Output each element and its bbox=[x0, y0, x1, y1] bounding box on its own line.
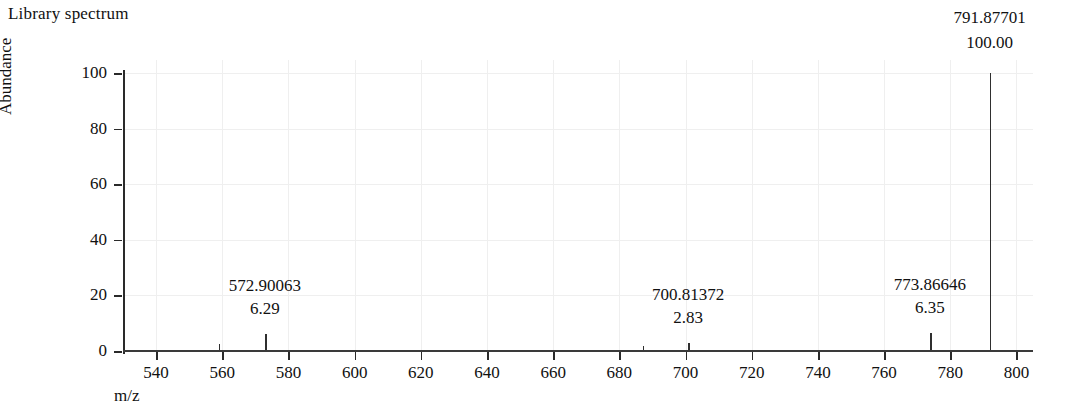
x-axis-tick-label: 720 bbox=[739, 363, 765, 383]
gridline-vertical bbox=[156, 60, 157, 360]
gridline-vertical bbox=[1016, 60, 1017, 360]
gridline-horizontal bbox=[123, 184, 1033, 185]
x-axis-tick bbox=[1016, 352, 1018, 360]
x-axis-tick bbox=[950, 352, 952, 360]
y-axis-tick-label: 40 bbox=[61, 230, 107, 250]
peak-mz-label: 572.90063 bbox=[229, 276, 301, 296]
page-title: Library spectrum bbox=[8, 4, 129, 24]
gridline-vertical bbox=[288, 60, 289, 360]
x-axis-line bbox=[123, 350, 1033, 352]
gridline-vertical bbox=[950, 60, 951, 360]
peak-mz-label: 791.87701 bbox=[953, 8, 1025, 28]
peak-intensity-label: 100.00 bbox=[966, 33, 1013, 53]
x-axis-label: m/z bbox=[114, 386, 140, 406]
x-axis-tick-label: 680 bbox=[607, 363, 633, 383]
x-axis-tick-label: 780 bbox=[938, 363, 964, 383]
x-axis-tick-label: 600 bbox=[342, 363, 368, 383]
spectrum-peak bbox=[930, 333, 932, 351]
gridline-vertical bbox=[884, 60, 885, 360]
x-axis-tick bbox=[553, 352, 555, 360]
peak-intensity-label: 6.35 bbox=[915, 298, 945, 318]
gridline-horizontal bbox=[123, 240, 1033, 241]
peak-mz-label: 700.81372 bbox=[652, 285, 724, 305]
gridline-vertical bbox=[421, 60, 422, 360]
x-axis-tick bbox=[421, 352, 423, 360]
x-axis-tick bbox=[355, 352, 357, 360]
x-axis-tick bbox=[487, 352, 489, 360]
peak-intensity-label: 6.29 bbox=[250, 299, 280, 319]
y-axis-label: Abundance bbox=[0, 38, 16, 115]
y-axis-tick-label: 80 bbox=[61, 119, 107, 139]
spectrum-peak bbox=[265, 334, 267, 351]
gridline-horizontal bbox=[123, 73, 1033, 74]
y-axis-tick-label: 100 bbox=[61, 63, 107, 83]
y-axis-tick-label: 60 bbox=[61, 174, 107, 194]
x-axis-tick-label: 580 bbox=[276, 363, 302, 383]
x-axis-tick-label: 540 bbox=[143, 363, 169, 383]
gridline-vertical bbox=[553, 60, 554, 360]
x-axis-tick bbox=[884, 352, 886, 360]
x-axis-tick bbox=[619, 352, 621, 360]
gridline-horizontal bbox=[123, 129, 1033, 130]
x-axis-tick bbox=[156, 352, 158, 360]
x-axis-tick bbox=[222, 352, 224, 360]
x-axis-tick-label: 560 bbox=[210, 363, 236, 383]
gridline-horizontal bbox=[123, 295, 1033, 296]
y-axis-tick bbox=[114, 184, 122, 186]
gridline-vertical bbox=[818, 60, 819, 360]
spectrum-peak bbox=[990, 73, 992, 351]
y-axis-tick bbox=[114, 351, 122, 353]
gridline-vertical bbox=[752, 60, 753, 360]
peak-intensity-label: 2.83 bbox=[673, 308, 703, 328]
y-axis-tick-label: 20 bbox=[61, 285, 107, 305]
gridline-vertical bbox=[222, 60, 223, 360]
gridline-vertical bbox=[487, 60, 488, 360]
gridline-vertical bbox=[619, 60, 620, 360]
x-axis-tick bbox=[818, 352, 820, 360]
y-axis-tick bbox=[114, 73, 122, 75]
x-axis-tick-label: 760 bbox=[871, 363, 897, 383]
y-axis-tick bbox=[114, 129, 122, 131]
peak-mz-label: 773.86646 bbox=[894, 275, 966, 295]
x-axis-tick-label: 620 bbox=[408, 363, 434, 383]
gridline-vertical bbox=[355, 60, 356, 360]
x-axis-tick-label: 800 bbox=[1004, 363, 1030, 383]
x-axis-tick bbox=[686, 352, 688, 360]
y-axis-tick-label: 0 bbox=[61, 341, 107, 361]
x-axis-tick bbox=[288, 352, 290, 360]
x-axis-tick-label: 740 bbox=[805, 363, 831, 383]
y-axis-tick bbox=[114, 240, 122, 242]
x-axis-tick-label: 640 bbox=[474, 363, 500, 383]
y-axis-tick bbox=[114, 295, 122, 297]
y-axis-line bbox=[123, 70, 125, 354]
spectrum-figure: Library spectrum 020406080100 5405605806… bbox=[0, 0, 1081, 418]
x-axis-tick-label: 660 bbox=[540, 363, 566, 383]
x-axis-tick bbox=[752, 352, 754, 360]
x-axis-tick-label: 700 bbox=[673, 363, 699, 383]
